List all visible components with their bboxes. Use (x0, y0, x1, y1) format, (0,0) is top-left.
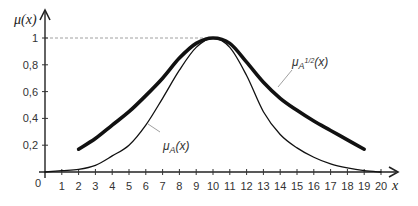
membership-function-chart: 12345678910111213141516171819200,20,40,6… (0, 0, 418, 206)
x-tick-label: 15 (291, 180, 303, 192)
y-tick-label: 0,8 (23, 59, 38, 71)
y-tick-label: 1 (32, 32, 38, 44)
axes (39, 10, 398, 178)
x-axis-label: x (391, 178, 399, 193)
x-tick-label: 7 (160, 180, 166, 192)
y-axis-label: μ(x) (13, 12, 37, 28)
x-tick-label: 16 (308, 180, 320, 192)
curve-mu-a (45, 38, 381, 172)
x-tick-label: 3 (92, 180, 98, 192)
curves (45, 38, 381, 172)
label-mu-a: μA(x) (162, 139, 190, 155)
curve-labels: μA(x)μA1/2(x) (148, 55, 328, 155)
x-tick-label: 4 (109, 180, 115, 192)
x-tick-label: 2 (76, 180, 82, 192)
x-tick-label: 1 (59, 180, 65, 192)
x-tick-label: 10 (207, 180, 219, 192)
x-tick-label: 13 (257, 180, 269, 192)
x-tick-label: 18 (341, 180, 353, 192)
x-tick-label: 11 (224, 180, 235, 192)
x-tick-label: 12 (240, 180, 252, 192)
y-tick-label: 0,4 (23, 112, 38, 124)
x-tick-label: 17 (324, 180, 336, 192)
x-tick-label: 5 (126, 180, 132, 192)
y-tick-label: 0,2 (23, 139, 38, 151)
x-tick-label: 14 (274, 180, 286, 192)
x-tick-label: 8 (176, 180, 182, 192)
x-tick-label: 6 (143, 180, 149, 192)
y-tick-label: 0,6 (23, 86, 38, 98)
axis-ticks: 12345678910111213141516171819200,20,40,6… (23, 32, 387, 192)
x-tick-label: 20 (375, 180, 387, 192)
x-tick-label: 19 (358, 180, 370, 192)
x-tick-label: 9 (193, 180, 199, 192)
origin-label: 0 (35, 177, 41, 189)
label-mu-a-sqrt: μA1/2(x) (291, 55, 328, 71)
